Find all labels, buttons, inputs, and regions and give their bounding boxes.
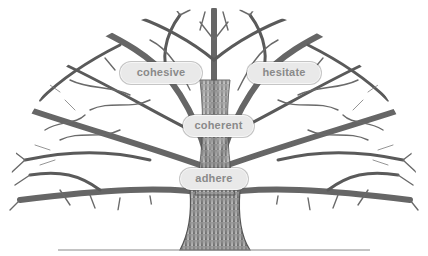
label-adhere: adhere: [180, 168, 248, 190]
label-hesitate: hesitate: [247, 62, 321, 84]
label-cohesive: cohesive: [120, 62, 202, 84]
trunk: [180, 80, 250, 250]
label-coherent: coherent: [183, 115, 254, 137]
